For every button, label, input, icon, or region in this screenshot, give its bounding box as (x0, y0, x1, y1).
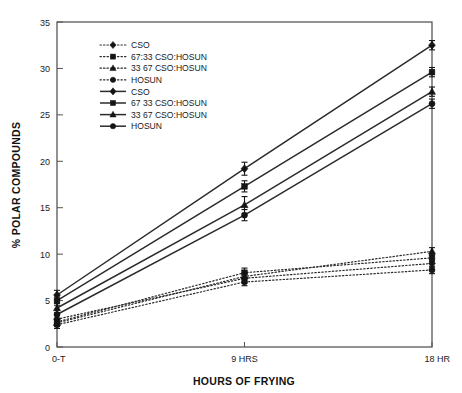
data-point-marker (429, 101, 435, 107)
y-tick-label: 20 (40, 157, 50, 167)
legend-label: 67 33 CSO:HOSUN (131, 98, 207, 108)
y-axis-title: % POLAR COMPOUNDS (10, 122, 22, 248)
y-tick-label: 10 (40, 250, 50, 260)
legend-marker-circle (110, 124, 115, 129)
data-point-marker (242, 183, 248, 189)
legend-label: 67:33 CSO:HOSUN (131, 52, 207, 62)
data-point-marker (429, 69, 435, 75)
legend-label: CSO (131, 87, 150, 97)
y-tick-label: 15 (40, 203, 50, 213)
x-tick-label: 18 HR (424, 354, 450, 364)
legend-label: HOSUN (131, 121, 162, 131)
polar-compounds-line-chart: 05101520253035 0-T9 HRS18 HR CSO67:33 CS… (0, 0, 462, 393)
y-tick-label: 35 (40, 18, 50, 28)
data-point-marker (241, 212, 247, 218)
legend-marker-square (110, 54, 115, 59)
y-tick-label: 0 (45, 343, 50, 353)
y-tick-label: 5 (45, 296, 50, 306)
data-point-marker (54, 311, 60, 317)
legend-label: CSO (131, 40, 150, 50)
x-axis-title: HOURS OF FRYING (193, 375, 295, 387)
legend-marker-square (110, 100, 115, 105)
y-tick-label: 30 (40, 64, 50, 74)
data-point-marker (429, 267, 435, 273)
x-tick-label: 9 HRS (231, 354, 258, 364)
chart-background (0, 0, 462, 393)
legend-label: HOSUN (131, 75, 162, 85)
data-point-marker (54, 298, 60, 304)
x-tick-label: 0-T (52, 354, 66, 364)
y-tick-label: 25 (40, 110, 50, 120)
legend-label: 33 67 CSO:HOSUN (131, 110, 207, 120)
data-point-marker (429, 255, 435, 261)
data-point-marker (241, 279, 247, 285)
legend-label: 33 67 CSO:HOSUN (131, 63, 207, 73)
legend-marker-circle (110, 77, 115, 82)
data-point-marker (54, 322, 60, 328)
